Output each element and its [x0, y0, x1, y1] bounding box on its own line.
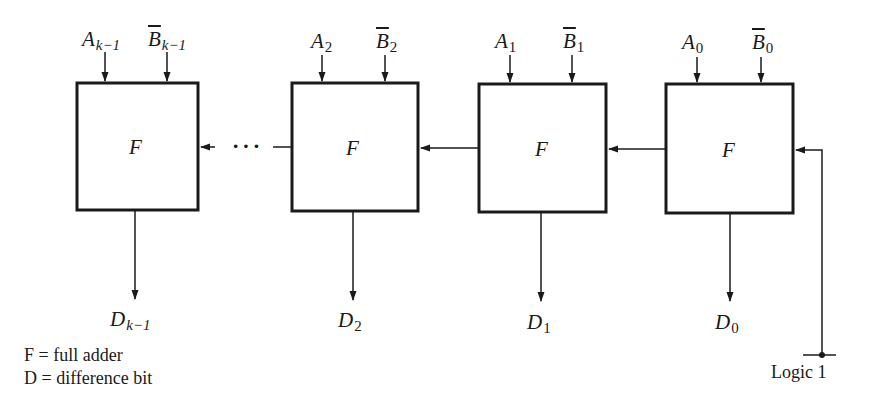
logic-1-node: [819, 352, 825, 358]
var-base: D: [527, 310, 542, 334]
var-sub: k−1: [162, 37, 186, 53]
var-sub: 2: [354, 318, 362, 334]
var-base: B: [752, 30, 765, 54]
diagram-canvas: [0, 0, 874, 408]
var-base: A: [82, 27, 95, 51]
var-sub: 2: [390, 39, 398, 55]
input-label-a-0: A0: [682, 30, 703, 57]
var-sub: 0: [731, 320, 739, 336]
var-sub: 2: [325, 39, 333, 55]
ellipsis: ···: [232, 133, 263, 159]
output-label-d-1: D1: [527, 310, 551, 337]
logic-1-label: Logic 1: [771, 362, 827, 383]
legend-difference-bit: D = difference bit: [24, 368, 152, 389]
carry-in-line: [796, 150, 822, 355]
block-label-1: F: [535, 137, 548, 162]
var-base: B: [376, 29, 389, 53]
input-label-b-2: B2: [376, 29, 397, 56]
output-label-d-k-1: Dk−1: [110, 307, 150, 334]
var-sub: 0: [696, 40, 704, 56]
input-label-b-1: B1: [563, 29, 584, 56]
output-label-d-2: D2: [338, 308, 362, 335]
block-label-0: F: [722, 138, 735, 163]
block-label-k-1: F: [129, 135, 142, 160]
var-sub: 1: [577, 39, 585, 55]
var-base: A: [682, 30, 695, 54]
legend-full-adder: F = full adder: [24, 345, 123, 366]
var-sub: 0: [766, 40, 774, 56]
var-sub: k−1: [126, 317, 150, 333]
block-label-2: F: [346, 136, 359, 161]
var-base: D: [715, 310, 730, 334]
input-label-a-2: A2: [311, 29, 332, 56]
input-label-a-k-1: Ak−1: [82, 27, 120, 54]
var-base: B: [148, 27, 161, 51]
var-base: D: [110, 307, 125, 331]
var-sub: 1: [509, 39, 517, 55]
input-label-b-0: B0: [752, 30, 773, 57]
input-label-a-1: A1: [495, 29, 516, 56]
var-sub: k−1: [96, 37, 120, 53]
output-label-d-0: D0: [715, 310, 739, 337]
var-sub: 1: [543, 320, 551, 336]
var-base: A: [495, 29, 508, 53]
var-base: B: [563, 29, 576, 53]
var-base: A: [311, 29, 324, 53]
var-base: D: [338, 308, 353, 332]
input-label-b-k-1: Bk−1: [148, 27, 186, 54]
